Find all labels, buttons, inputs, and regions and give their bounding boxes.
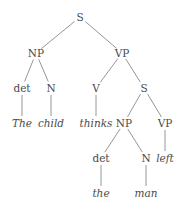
node-det2: det — [92, 153, 109, 164]
node-vp2: VP — [158, 118, 173, 129]
node-det1: det — [13, 83, 30, 94]
node-np1: NP — [28, 48, 44, 59]
tree-edge — [126, 59, 141, 82]
tree-edge — [148, 94, 162, 117]
tree-edge — [127, 94, 140, 117]
word-w-thinks: thinks — [80, 118, 113, 129]
tree-edge — [100, 59, 118, 83]
word-w-the2: the — [92, 188, 109, 199]
tree-edge — [39, 59, 48, 81]
node-vp1: VP — [115, 48, 130, 59]
tree-edge — [128, 129, 143, 152]
node-v1: V — [92, 83, 100, 94]
word-w-the1: The — [12, 118, 32, 129]
tree-edge — [105, 129, 120, 152]
node-n2: N — [141, 153, 150, 164]
tree-edge — [41, 21, 74, 48]
word-w-child: child — [38, 118, 64, 129]
word-w-man: man — [135, 188, 158, 199]
node-np2: NP — [116, 118, 132, 129]
node-n1: N — [46, 83, 55, 94]
tree-edges — [0, 0, 186, 210]
node-s-root: S — [76, 12, 83, 23]
word-w-left: left — [156, 153, 174, 164]
tree-edge — [25, 59, 34, 81]
tree-edge — [85, 22, 116, 49]
node-s2: S — [140, 83, 147, 94]
